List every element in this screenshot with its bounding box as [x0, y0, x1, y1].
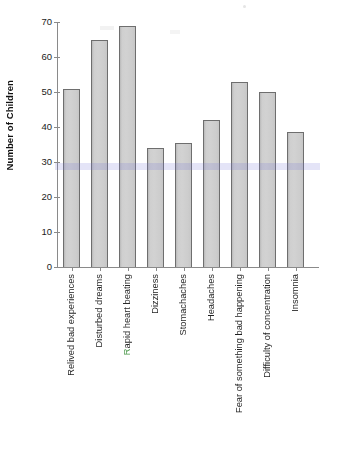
x-tick: [72, 267, 73, 271]
y-tick-label-50: 50: [41, 87, 52, 97]
y-tick-label-10: 10: [41, 227, 52, 237]
x-axis-label: Fear of something bad happening: [231, 274, 248, 413]
x-tick: [128, 267, 129, 271]
x-tick: [240, 267, 241, 271]
x-axis-label: Stomachaches: [175, 274, 192, 336]
bar-chart-figure: Number of Children 70 60 50 40 30 20: [0, 0, 337, 449]
x-tick: [268, 267, 269, 271]
bars-layer: [55, 14, 320, 267]
x-tick: [212, 267, 213, 271]
x-axis-label: Insomnia: [287, 274, 304, 312]
bar[interactable]: [119, 26, 136, 268]
x-axis-label: Dizziness: [147, 274, 164, 314]
x-axis-label: Relived bad experiences: [63, 274, 80, 376]
x-tick: [184, 267, 185, 271]
y-tick-label-20: 20: [41, 192, 52, 202]
plot-area: 70 60 50 40 30 20 10 0: [55, 14, 320, 270]
bar[interactable]: [203, 120, 220, 267]
y-axis-title: Number of Children: [4, 80, 18, 170]
scan-speck: [243, 5, 246, 8]
x-axis-label: Rapid heart beating: [119, 274, 136, 355]
bar[interactable]: [175, 143, 192, 267]
y-tick-label-30: 30: [41, 157, 52, 167]
x-axis-labels: Relived bad experiencesDisturbed dreamsR…: [55, 274, 320, 444]
y-tick-label-70: 70: [41, 17, 52, 27]
bar[interactable]: [63, 89, 80, 268]
bar[interactable]: [287, 132, 304, 267]
x-axis-label: Headaches: [203, 274, 220, 321]
x-tick: [100, 267, 101, 271]
bar[interactable]: [147, 148, 164, 267]
y-tick-label-40: 40: [41, 122, 52, 132]
x-axis-label: Difficulty of concentration: [259, 274, 276, 378]
bar[interactable]: [231, 82, 248, 268]
y-tick-label-0: 0: [47, 262, 52, 272]
x-axis-label: Disturbed dreams: [91, 274, 108, 347]
x-tick: [296, 267, 297, 271]
x-axis-line: [57, 267, 319, 268]
y-tick-label-60: 60: [41, 52, 52, 62]
bar[interactable]: [91, 40, 108, 268]
bar[interactable]: [259, 92, 276, 267]
x-tick: [156, 267, 157, 271]
